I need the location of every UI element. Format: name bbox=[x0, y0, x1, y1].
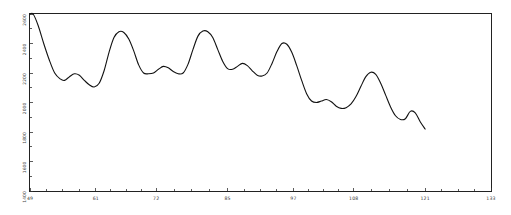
y-axis-tick-label: 2400 bbox=[22, 43, 27, 55]
x-axis-tick-label: 97 bbox=[290, 196, 296, 201]
x-axis-tick-labels: 4961728597108121133 bbox=[27, 196, 496, 201]
y-axis-ticks bbox=[30, 14, 33, 191]
y-axis-tick-label: 2000 bbox=[22, 102, 27, 114]
y-axis-tick-label: 1400 bbox=[22, 191, 27, 203]
y-axis-tick-label: 2200 bbox=[22, 73, 27, 85]
x-axis-tick-label: 61 bbox=[93, 196, 99, 201]
axis-frame-rect bbox=[30, 14, 492, 192]
x-axis-tick-label: 72 bbox=[153, 196, 159, 201]
chart-container: 4961728597108121133 26002400220020001800… bbox=[0, 0, 511, 215]
y-axis-tick-label: 1600 bbox=[22, 161, 27, 173]
plot-frame bbox=[30, 14, 492, 192]
data-line-1 bbox=[30, 13, 425, 129]
x-axis-ticks bbox=[30, 188, 491, 191]
x-axis-tick-label: 121 bbox=[420, 196, 429, 201]
y-axis-tick-label: 2600 bbox=[22, 14, 27, 26]
data-series-group bbox=[30, 13, 425, 129]
y-axis-tick-labels: 2600240022002000180016001400 bbox=[22, 14, 27, 203]
line-chart: 4961728597108121133 26002400220020001800… bbox=[0, 0, 511, 215]
x-axis-tick-label: 85 bbox=[224, 196, 230, 201]
x-axis-tick-label: 108 bbox=[349, 196, 358, 201]
x-axis-tick-label: 133 bbox=[486, 196, 495, 201]
x-axis-tick-label: 49 bbox=[27, 196, 33, 201]
y-axis-tick-label: 1800 bbox=[22, 132, 27, 144]
